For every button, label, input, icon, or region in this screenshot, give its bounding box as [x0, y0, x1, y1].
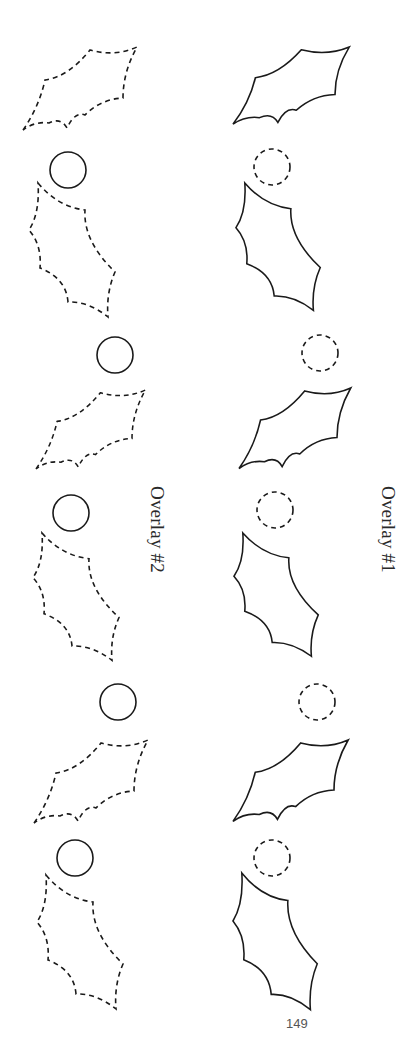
berry-outline-solid — [57, 840, 93, 876]
coloring-page: Overlay #2 Overlay #1 149 — [0, 0, 411, 1050]
leaf-outline-solid — [233, 873, 317, 1010]
leaf-outline-dashed — [34, 740, 148, 823]
berry-outline-dashed — [299, 684, 335, 720]
leaf-outline-dashed — [37, 875, 123, 1009]
leaf-outline-solid — [234, 533, 318, 656]
berry-outline-dashed — [254, 840, 290, 876]
berry-outline-solid — [50, 152, 86, 188]
leaf-outline-solid — [239, 388, 351, 469]
overlay-2-column — [23, 47, 148, 1009]
berry-outline-dashed — [254, 149, 290, 185]
berry-outline-solid — [97, 337, 133, 373]
berry-outline-dashed — [302, 335, 338, 371]
holly-overlays-artwork — [0, 0, 411, 1050]
berry-outline-dashed — [257, 492, 293, 528]
leaf-outline-dashed — [36, 390, 145, 469]
leaf-outline-dashed — [23, 47, 137, 130]
berry-outline-solid — [53, 495, 89, 531]
overlay-2-label: Overlay #2 — [146, 486, 168, 573]
leaf-outline-solid — [236, 183, 320, 310]
leaf-outline-solid — [233, 740, 348, 821]
overlay-1-label: Overlay #1 — [377, 486, 399, 573]
leaf-outline-dashed — [29, 183, 115, 317]
leaf-outline-dashed — [33, 533, 119, 660]
leaf-outline-solid — [233, 47, 349, 124]
page-number: 149 — [286, 1016, 308, 1031]
overlay-1-column — [233, 47, 351, 1010]
berry-outline-solid — [100, 684, 136, 720]
